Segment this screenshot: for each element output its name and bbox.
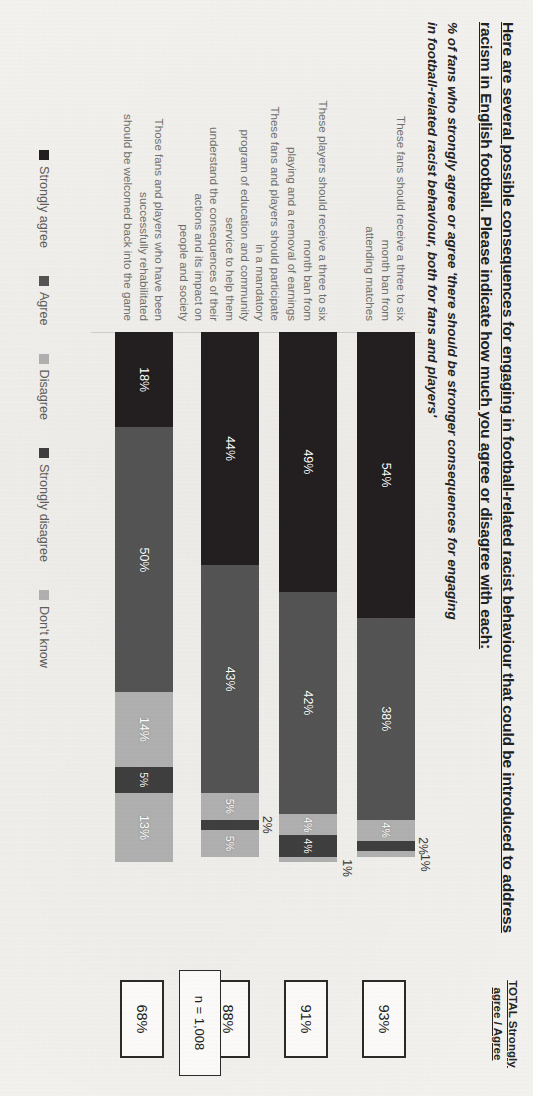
category-label-line: program of education and community servi… (222, 96, 252, 321)
legend-swatch-icon (39, 590, 49, 600)
legend-item[interactable]: Strongly disagree (37, 448, 51, 562)
segment-value-label: 5% (224, 836, 236, 851)
page-title-line-1-text: Here are several possible consequences f… (500, 22, 517, 933)
sample-size-label: n = 1,008 (193, 996, 208, 1051)
total-agree-value: 91% (298, 1004, 314, 1033)
page-title-line-1: Here are several possible consequences f… (497, 22, 519, 1062)
legend-label: Disagree (37, 370, 51, 420)
bar-segment-strongly-disagree[interactable]: 2% (201, 820, 259, 831)
segment-value-label: 4% (302, 817, 314, 832)
total-agree-value: 93% (376, 1004, 392, 1033)
total-column-header: TOTAL Strongly agree / Agree (490, 972, 521, 1076)
segment-value-label: 14% (137, 717, 151, 742)
segment-value-label: 2% (416, 837, 430, 855)
segment-value-label: 44% (223, 436, 237, 461)
bar-segment-strongly-agree[interactable]: 49% (279, 332, 337, 592)
bar-segment-disagree[interactable]: 4% (279, 814, 337, 835)
page-title-line-2: racism in English football. Please indic… (475, 22, 497, 1062)
bar-segment-strongly-disagree[interactable]: 5% (115, 767, 173, 794)
stacked-bar[interactable]: 44%43%5%2%5%88% (201, 332, 259, 936)
legend-item[interactable]: Disagree (37, 354, 51, 420)
legend-item[interactable]: Strongly agree (37, 150, 51, 248)
segment-value-label: 5% (224, 799, 236, 814)
segment-value-label: 5% (138, 772, 150, 787)
segment-value-label: 4% (302, 838, 314, 853)
rotated-page: Here are several possible consequences f… (0, 0, 533, 1096)
bar-segment-agree[interactable]: 42% (279, 592, 337, 815)
bar-segment-strongly-disagree[interactable]: 2% (357, 841, 415, 852)
legend-swatch-icon (39, 150, 49, 160)
category-label: These players should receive a three to … (279, 96, 337, 332)
legend-swatch-icon (39, 276, 49, 286)
segment-value-label: 43% (223, 667, 237, 692)
bar-segment-don-t-know[interactable]: 1% (279, 857, 337, 862)
chart-row: These players should receive a three to … (279, 96, 337, 936)
bar-segment-don-t-know[interactable]: 13% (115, 793, 173, 862)
category-label-line: These fans and players should participat… (253, 96, 283, 321)
legend-label: Strongly agree (37, 166, 51, 248)
chart-title-block: Here are several possible consequences f… (422, 22, 519, 1062)
category-label-line: playing and a removal of earnings (285, 96, 300, 321)
chart-row: These fans should receive a three to six… (357, 96, 415, 936)
legend-swatch-icon (39, 354, 49, 364)
category-label-line: people and society (177, 96, 192, 321)
bar-segment-agree[interactable]: 50% (115, 427, 173, 692)
total-agree-box: 93% (362, 980, 406, 1058)
category-label-line: attending matches (363, 96, 378, 321)
total-agree-value: 68% (134, 1004, 150, 1033)
stacked-bar[interactable]: 18%50%14%5%13%68% (115, 332, 173, 936)
page-title-line-2-text: racism in English football. Please indic… (478, 22, 495, 649)
segment-value-label: 50% (137, 547, 151, 572)
category-label-line: These fans should receive a three to six… (378, 96, 408, 321)
chart-row: These fans and players should participat… (201, 96, 259, 936)
legend-label: Strongly disagree (37, 464, 51, 562)
segment-value-label: 1% (340, 859, 354, 866)
category-label-line: should be welcomed back into the game (121, 96, 136, 321)
bar-segment-don-t-know[interactable]: 5% (201, 830, 259, 857)
total-agree-value: 88% (220, 1004, 236, 1033)
bar-segment-strongly-agree[interactable]: 54% (357, 332, 415, 618)
legend-label: Agree (37, 292, 51, 326)
legend-item[interactable]: Don't know (37, 590, 51, 668)
stacked-bar[interactable]: 49%42%4%4%1%91% (279, 332, 337, 936)
legend-label: Don't know (37, 606, 51, 668)
bar-segment-disagree[interactable]: 14% (115, 692, 173, 766)
segment-value-label: 4% (380, 823, 392, 838)
segment-value-label: 18% (137, 367, 151, 392)
legend-swatch-icon (39, 448, 49, 458)
category-label: Those fans and players who have been suc… (115, 96, 173, 332)
bar-segment-agree[interactable]: 38% (357, 618, 415, 819)
segment-value-label: 13% (137, 815, 151, 840)
bar-segment-disagree[interactable]: 5% (201, 793, 259, 820)
legend-item[interactable]: Agree (37, 276, 51, 326)
category-label-line: These players should receive a three to … (300, 96, 330, 321)
segment-value-label: 49% (301, 449, 315, 474)
segment-value-label: 42% (301, 691, 315, 716)
segment-value-label: 54% (379, 463, 393, 488)
segment-value-label: 2% (260, 816, 274, 834)
segment-value-label: 38% (379, 706, 393, 731)
bar-segment-agree[interactable]: 43% (201, 565, 259, 793)
segment-value-label: 1% (418, 854, 432, 861)
category-label: These fans should receive a three to six… (357, 96, 415, 332)
stacked-bar-plot: These fans should receive a three to six… (91, 96, 421, 936)
sample-size-box: n = 1,008 (179, 970, 221, 1076)
total-column-header-line-2: agree / Agree (492, 987, 505, 1060)
chart-subtitle-line-2: in football-related racist behaviour, bo… (422, 22, 441, 1062)
bar-segment-strongly-disagree[interactable]: 4% (279, 835, 337, 856)
category-label: These fans and players should participat… (201, 96, 259, 332)
bar-segment-don-t-know[interactable]: 1% (357, 851, 415, 856)
total-column-header-line-1: TOTAL Strongly (507, 980, 520, 1068)
category-label-line: Those fans and players who have been suc… (136, 96, 166, 321)
chart-subtitle-line-1: % of fans who strongly agree or agree 't… (443, 22, 462, 1062)
bar-segment-strongly-agree[interactable]: 18% (115, 332, 173, 427)
stacked-bar[interactable]: 54%38%4%2%1%93% (357, 332, 415, 936)
total-agree-box: 91% (284, 980, 328, 1058)
category-label-line: understand the consequences of their act… (192, 96, 222, 321)
chart-legend: Strongly agreeAgreeDisagreeStrongly disa… (37, 150, 51, 668)
chart-row: Those fans and players who have been suc… (115, 96, 173, 936)
total-agree-box: 68% (120, 980, 164, 1058)
bar-segment-strongly-agree[interactable]: 44% (201, 332, 259, 565)
bar-segment-disagree[interactable]: 4% (357, 820, 415, 841)
